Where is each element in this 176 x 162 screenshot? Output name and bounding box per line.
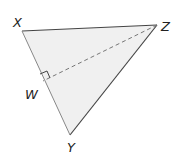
diagram-svg: X Z W Y	[0, 0, 176, 162]
label-y: Y	[67, 140, 76, 155]
triangle-diagram: X Z W Y	[0, 0, 176, 162]
label-z: Z	[160, 19, 171, 34]
label-x: X	[12, 15, 23, 30]
label-w: W	[25, 87, 39, 102]
triangle-xyz-fill	[22, 25, 157, 135]
